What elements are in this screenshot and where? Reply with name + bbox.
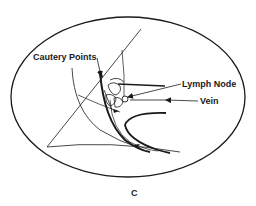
label-lymph-node: Lymph Node xyxy=(182,80,236,89)
cautery-points-marks xyxy=(98,71,140,148)
upper-tissue-curve xyxy=(122,50,124,100)
vein-thick-curve xyxy=(125,113,170,153)
vein-leader-line xyxy=(166,100,198,101)
vein-circle xyxy=(122,96,128,102)
vessel-inner-curve xyxy=(110,100,158,151)
label-cautery-points: Cautery Points xyxy=(33,53,97,62)
upper-horizontal-structure xyxy=(118,84,165,86)
panel-label: C xyxy=(131,189,138,198)
anatomical-diagram: Cautery Points Lymph Node Vein C xyxy=(0,0,256,206)
label-vein: Vein xyxy=(200,97,219,106)
lymph-node-cluster xyxy=(104,78,124,110)
